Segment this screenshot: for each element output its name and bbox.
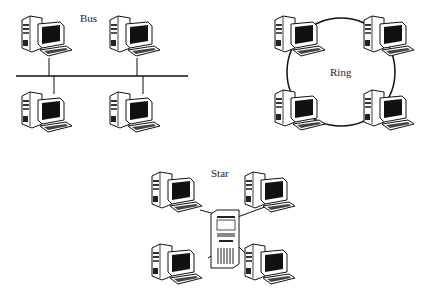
star-computer-icon — [243, 242, 295, 288]
network-topologies-diagram: Bus Ring Star — [0, 0, 430, 297]
bus-computer-icon — [108, 14, 160, 60]
star-computer-icon — [243, 170, 295, 216]
star-label: Star — [211, 167, 229, 179]
ring-label: Ring — [330, 66, 351, 78]
ring-computer-icon — [273, 14, 325, 60]
bus-label: Bus — [80, 12, 97, 24]
server-icon — [209, 210, 241, 268]
ring-computer-icon — [273, 88, 325, 134]
bus-computer-icon — [108, 90, 160, 136]
star-computer-icon — [150, 170, 202, 216]
ring-computer-icon — [362, 14, 414, 60]
ring-computer-icon — [362, 88, 414, 134]
star-computer-icon — [150, 242, 202, 288]
bus-computer-icon — [20, 90, 72, 136]
bus-computer-icon — [20, 14, 72, 60]
